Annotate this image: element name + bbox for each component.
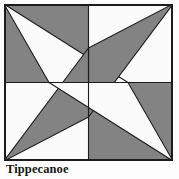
quilt-block-image (4, 4, 173, 161)
quilt-block-svg (4, 4, 173, 161)
block-caption-title: Tippecanoe (6, 162, 171, 176)
quilt-block-figure: Tippecanoe (0, 0, 179, 179)
